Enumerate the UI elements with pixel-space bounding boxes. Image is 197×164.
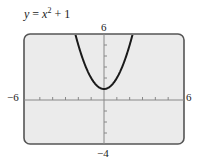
- graph-window: [0, 0, 197, 164]
- y-max-label: 6: [101, 22, 107, 33]
- y-min-label: −4: [97, 148, 109, 159]
- x-min-label: −6: [7, 92, 19, 103]
- x-max-label: 6: [186, 92, 192, 103]
